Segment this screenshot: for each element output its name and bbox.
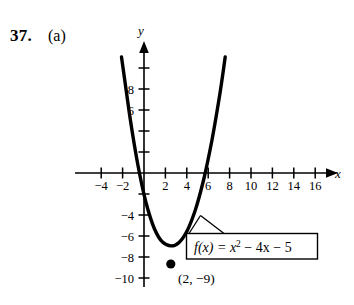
- formula-suffix: − 4x − 5: [241, 240, 292, 255]
- x-tick-label--2: −2: [116, 179, 129, 193]
- vertex-point: [166, 259, 175, 268]
- parabola-curve: [122, 57, 226, 246]
- x-axis-title: x: [334, 166, 341, 181]
- y-tick-label--8: −8: [121, 251, 134, 265]
- y-tick-label--4: −4: [121, 209, 135, 223]
- formula-text: f(x) = x2 − 4x − 5: [194, 239, 292, 256]
- x-axis-tick-labels: −4 −2 2 4 6 8 10 12 14 16: [95, 179, 322, 193]
- x-tick-label-14: 14: [288, 179, 301, 193]
- parabola-graph: −4 −2 2 4 6 8 10 12 14 16 −10 −8 −6 −4 6…: [0, 0, 354, 305]
- y-tick-label--10: −10: [114, 272, 134, 286]
- x-tick-label-12: 12: [266, 179, 279, 193]
- formula-prefix: f(x) = x: [194, 240, 237, 256]
- x-tick-label-16: 16: [309, 179, 322, 193]
- x-tick-label-10: 10: [245, 179, 258, 193]
- x-tick-label-2: 2: [162, 179, 168, 193]
- vertex-label: (2, −9): [178, 271, 215, 286]
- y-tick-label-8: 8: [128, 83, 134, 97]
- y-axis-title: y: [136, 23, 144, 38]
- y-tick-label--6: −6: [121, 230, 134, 244]
- x-tick-label-8: 8: [226, 179, 232, 193]
- y-axis-arrowhead: [139, 41, 149, 53]
- x-tick-label-4: 4: [184, 179, 191, 193]
- x-tick-label--4: −4: [95, 179, 109, 193]
- x-tick-label-6: 6: [205, 179, 211, 193]
